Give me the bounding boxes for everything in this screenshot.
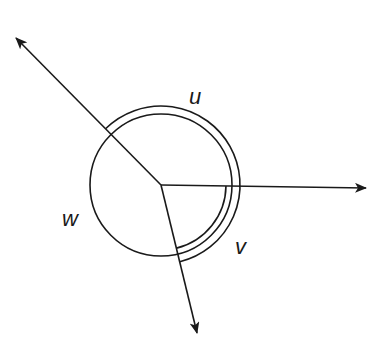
label-w: w [62, 208, 78, 230]
label-u: u [189, 86, 201, 108]
ray-south [161, 185, 197, 333]
ray-northwest [16, 38, 161, 185]
angle-diagram [0, 0, 388, 345]
label-v: v [235, 236, 246, 258]
ray-east [161, 185, 366, 188]
arc-outer [106, 106, 240, 262]
